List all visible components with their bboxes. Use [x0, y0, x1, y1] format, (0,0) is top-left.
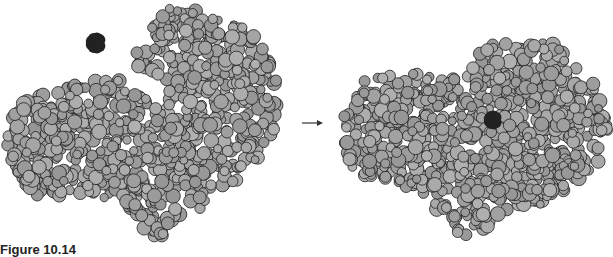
atom [395, 176, 404, 185]
atom [259, 137, 269, 147]
atom [402, 86, 415, 99]
atom [467, 102, 477, 112]
atom [508, 142, 522, 156]
atom [236, 161, 247, 172]
atom [128, 120, 141, 133]
atom [169, 148, 179, 158]
atom [188, 164, 199, 175]
atom [104, 111, 114, 121]
atom [449, 74, 460, 85]
atom [66, 91, 75, 100]
atom [251, 59, 261, 69]
atom [188, 9, 197, 18]
atom [443, 170, 457, 184]
atom [491, 207, 506, 222]
atom [150, 44, 160, 54]
atom [523, 153, 536, 166]
atom [183, 94, 197, 108]
atom [116, 119, 124, 127]
atom [342, 123, 351, 132]
atom [359, 88, 369, 98]
atom [561, 66, 572, 77]
atom [229, 51, 243, 65]
atom [394, 110, 409, 125]
atom [502, 86, 512, 96]
atom [158, 229, 168, 239]
atom [448, 93, 457, 102]
atom [558, 180, 568, 190]
atom [570, 162, 578, 170]
atom [100, 193, 108, 201]
atom [498, 132, 510, 144]
atom [251, 156, 259, 164]
atom [413, 175, 421, 183]
atom [408, 127, 417, 136]
atom [220, 167, 229, 176]
atom [115, 149, 126, 160]
atom [541, 91, 554, 104]
atom [560, 56, 569, 65]
atom [594, 104, 602, 112]
atom [32, 160, 46, 174]
atom [423, 75, 432, 84]
atom [51, 136, 61, 146]
atom [165, 122, 177, 134]
atom [121, 87, 130, 96]
atom [188, 71, 202, 85]
atom [503, 119, 516, 132]
atom [83, 180, 93, 190]
atom [128, 89, 141, 102]
atom [380, 94, 390, 104]
atom [10, 119, 25, 134]
atom [155, 174, 169, 188]
atom [423, 86, 433, 96]
atom [214, 145, 222, 153]
atom [125, 157, 134, 166]
atom [481, 44, 494, 57]
atom [513, 95, 523, 105]
atom [389, 129, 403, 143]
atom [582, 117, 592, 127]
atom [375, 122, 384, 131]
atom [179, 24, 192, 37]
atom [381, 159, 390, 168]
atom [129, 199, 141, 211]
atom [471, 184, 485, 198]
atom [93, 109, 103, 119]
atom [476, 208, 490, 222]
substrate-atom [491, 112, 502, 123]
atom [235, 79, 245, 89]
atom [92, 124, 107, 139]
atom [392, 78, 403, 89]
atom [421, 151, 432, 162]
atom [179, 39, 191, 51]
atom [491, 168, 504, 181]
atom [114, 76, 123, 85]
atom [17, 103, 31, 117]
atom [43, 177, 53, 187]
atom [428, 95, 436, 103]
atom [8, 151, 19, 162]
atom [532, 184, 543, 195]
atom [150, 103, 162, 115]
atom [38, 107, 51, 120]
atom [84, 99, 93, 108]
atom [132, 59, 146, 73]
atom [225, 30, 239, 44]
atom [594, 113, 605, 124]
atom [109, 176, 121, 188]
atom [210, 81, 219, 90]
atom [238, 23, 247, 32]
atom [142, 152, 153, 163]
atom [343, 153, 356, 166]
atom [560, 90, 573, 103]
atom [492, 184, 506, 198]
atom [249, 124, 262, 137]
atom [528, 40, 541, 53]
atom [23, 170, 35, 182]
atom [52, 87, 65, 100]
atom [461, 184, 471, 194]
atom [380, 171, 391, 182]
atom [484, 145, 492, 153]
atom [378, 73, 388, 83]
